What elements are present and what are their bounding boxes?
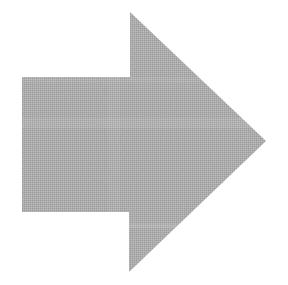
arrow-graphic xyxy=(0,0,288,285)
image-canvas: right block-arrow #A8A8A8 xyxy=(0,0,288,285)
